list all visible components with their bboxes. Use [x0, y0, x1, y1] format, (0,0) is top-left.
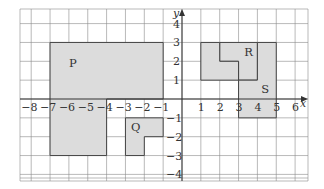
x-tick-label: 6: [292, 101, 299, 114]
y-tick-label: 4: [173, 18, 180, 31]
y-tick-label: −2: [166, 131, 182, 144]
shape-label-r: R: [244, 45, 253, 59]
x-axis-label: x: [300, 97, 307, 110]
x-tick-label: 3: [236, 101, 243, 114]
y-tick-label: 2: [173, 55, 180, 68]
x-tick-label: 4: [254, 101, 261, 114]
shape-label-p: P: [69, 56, 77, 70]
x-tick-label: 1: [198, 101, 205, 114]
x-tick-label: −8: [21, 101, 37, 114]
y-tick-label: −4: [166, 168, 182, 181]
x-tick-label: −4: [97, 101, 113, 114]
x-tick-label: 2: [217, 101, 224, 114]
x-tick-label: −5: [78, 101, 94, 114]
x-tick-label: −3: [115, 101, 131, 114]
y-tick-label: −3: [166, 150, 182, 163]
x-tick-label: 5: [273, 101, 280, 114]
shape-label-q: Q: [131, 120, 140, 134]
y-axis-arrow-icon: [179, 9, 185, 16]
coordinate-grid-diagram: x y −8−7−6−5−4−3−2−11234564321−1−2−3−4 P…: [0, 0, 324, 189]
x-tick-label: −2: [134, 101, 150, 114]
x-tick-label: −6: [59, 101, 75, 114]
y-tick-label: 1: [173, 74, 180, 87]
y-tick-label: 3: [173, 36, 180, 49]
shape-label-s: S: [261, 82, 269, 96]
x-tick-label: −7: [40, 101, 56, 114]
y-tick-label: −1: [166, 112, 182, 125]
